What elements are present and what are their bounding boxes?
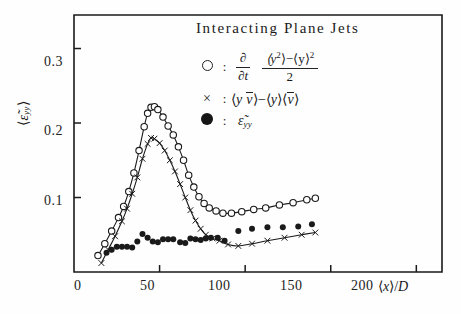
data-point <box>249 226 255 232</box>
legend-formula-0: ∂ ∂t ⟨y2⟩−⟨y⟩2 2 <box>231 50 321 85</box>
data-point <box>295 224 301 230</box>
y-tick-label-0: 0.3 <box>44 54 63 70</box>
data-point <box>193 218 199 224</box>
data-point <box>177 181 183 187</box>
data-point <box>112 233 118 239</box>
data-point <box>102 240 108 246</box>
data-point <box>263 205 269 211</box>
data-point <box>167 157 173 163</box>
data-point <box>239 208 245 214</box>
legend-formula-1: ⟨y v⟩−⟨y⟩⟨v⟩ <box>231 91 299 108</box>
data-point <box>165 236 171 242</box>
data-point <box>208 235 214 241</box>
variance-num-mid: ⟩−⟨y⟩ <box>281 51 310 66</box>
y-label-close-bracket: ⟩ <box>16 101 31 106</box>
data-point <box>129 244 135 250</box>
variance-denominator: 2 <box>283 69 298 85</box>
flux-close-bracket: ⟩ <box>294 92 299 107</box>
data-point <box>251 206 257 212</box>
legend-colon-2: : <box>218 113 231 129</box>
y-label-epsilon: ε̃ <box>16 115 31 121</box>
data-point <box>150 238 156 244</box>
x-tick-label-0: 0 <box>74 278 82 294</box>
legend-entry-2: : ε̃yy <box>196 113 446 129</box>
data-point <box>198 226 204 232</box>
data-point <box>162 148 168 154</box>
data-point <box>206 205 212 211</box>
x-tick-label-1: 50 <box>140 278 155 294</box>
data-point <box>196 194 202 200</box>
data-point <box>180 157 186 163</box>
y-tick-label-2: 0.1 <box>44 193 63 209</box>
x-axis-label: ⟨x⟩/D <box>378 278 408 295</box>
legend-colon-1: : <box>218 91 231 107</box>
legend-entry-0: : ∂ ∂t ⟨y2⟩−⟨y⟩2 2 <box>196 50 446 85</box>
data-point <box>120 203 126 209</box>
data-point <box>119 218 125 224</box>
chart-canvas <box>0 0 461 314</box>
data-point <box>126 188 132 194</box>
data-point <box>215 235 221 241</box>
filled-circle-icon <box>196 113 218 129</box>
flux-vbar: v <box>246 92 253 108</box>
figure-container: ⟨ε̃yy⟩ 0.3 0.2 0.1 0 50 100 150 200 ⟨x⟩/… <box>0 0 461 314</box>
data-point <box>165 123 171 129</box>
data-point <box>280 224 286 230</box>
y-label-subscript: yy <box>21 106 31 115</box>
data-point <box>193 236 199 242</box>
variance-num-part-a: ⟨y <box>266 51 277 66</box>
data-point <box>170 132 176 138</box>
data-point <box>175 144 181 150</box>
x-tick-label-4: 200 <box>351 278 374 294</box>
flux-mid: ⟩−⟨ <box>253 92 271 107</box>
y-axis-label: ⟨ε̃yy⟩ <box>15 84 32 144</box>
dissipation-subscript: yy <box>244 119 253 129</box>
legend: : ∂ ∂t ⟨y2⟩−⟨y⟩2 2 × : ⟨y v⟩−⟨y⟩⟨v⟩ : ε̃… <box>196 50 446 131</box>
data-point <box>124 244 130 250</box>
derivative-numerator: ∂ <box>236 51 250 68</box>
data-point <box>170 236 176 242</box>
data-point <box>108 228 114 234</box>
data-point <box>213 208 219 214</box>
data-point <box>134 238 140 244</box>
cross-icon: × <box>196 91 218 107</box>
data-point <box>155 106 161 112</box>
data-point <box>290 200 296 206</box>
x-tick-label-2: 100 <box>208 278 231 294</box>
data-point <box>119 244 125 250</box>
data-point <box>172 169 178 175</box>
data-point <box>312 195 318 201</box>
data-point <box>157 140 163 146</box>
data-point <box>228 210 234 216</box>
chart-title: Interacting Plane Jets <box>196 20 360 37</box>
data-point <box>222 238 228 244</box>
data-point <box>177 239 183 245</box>
data-point <box>145 141 151 147</box>
open-circle-icon <box>196 59 218 75</box>
data-point <box>264 224 270 230</box>
data-point <box>203 235 209 241</box>
data-point <box>131 170 137 176</box>
data-point <box>182 195 188 201</box>
series-1-fit-line <box>101 138 315 264</box>
data-point <box>144 110 150 116</box>
variance-fraction: ⟨y2⟩−⟨y⟩2 2 <box>262 50 319 85</box>
data-point <box>140 156 146 162</box>
y-tick-label-1: 0.2 <box>44 123 63 139</box>
flux-mid2: ⟩⟨ <box>277 92 287 107</box>
derivative-denominator: ∂t <box>234 68 252 84</box>
data-point <box>160 236 166 242</box>
data-point <box>182 240 188 246</box>
variance-numerator: ⟨y2⟩−⟨y⟩2 <box>262 50 319 69</box>
data-point <box>136 147 142 153</box>
data-point <box>114 244 120 250</box>
data-point <box>198 237 204 243</box>
data-point <box>160 114 166 120</box>
legend-colon-0: : <box>218 59 231 75</box>
variance-num-sup-b: 2 <box>310 50 315 60</box>
data-point <box>139 231 145 237</box>
flux-y: y <box>236 92 242 107</box>
x-tick-label-3: 150 <box>280 278 303 294</box>
data-point <box>220 210 226 216</box>
data-point <box>141 124 147 130</box>
